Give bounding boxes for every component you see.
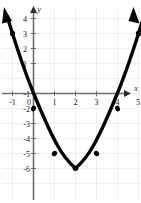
plot-background bbox=[0, 0, 141, 203]
ytick-label--5: -5 bbox=[23, 150, 30, 159]
y-axis-label: y bbox=[36, 5, 41, 14]
parabola-graph-figure: -1 0 1 2 3 4 5 4 3 2 1 -1 -2 -3 -4 -5 -6… bbox=[0, 0, 141, 203]
ytick-label-3: 3 bbox=[23, 30, 27, 39]
xtick-label-2: 2 bbox=[74, 98, 78, 107]
ytick-label--3: -3 bbox=[23, 120, 30, 129]
x-axis-label: x bbox=[133, 84, 138, 93]
point-marker-2--6 bbox=[73, 166, 79, 171]
xtick-label-1: 1 bbox=[53, 98, 57, 107]
ytick-label-4: 4 bbox=[23, 15, 27, 24]
ytick-label--2: -2 bbox=[23, 105, 30, 114]
ytick-label--1: -1 bbox=[23, 90, 30, 99]
ytick-label--4: -4 bbox=[23, 135, 30, 144]
xtick-label-3: 3 bbox=[95, 98, 99, 107]
xtick-label--1: -1 bbox=[9, 98, 16, 107]
ytick-label--6: -6 bbox=[23, 165, 30, 174]
ytick-label-2: 2 bbox=[23, 45, 27, 54]
xtick-label-5: 5 bbox=[136, 98, 140, 107]
coordinate-plane: -1 0 1 2 3 4 5 4 3 2 1 -1 -2 -3 -4 -5 -6… bbox=[0, 0, 141, 203]
